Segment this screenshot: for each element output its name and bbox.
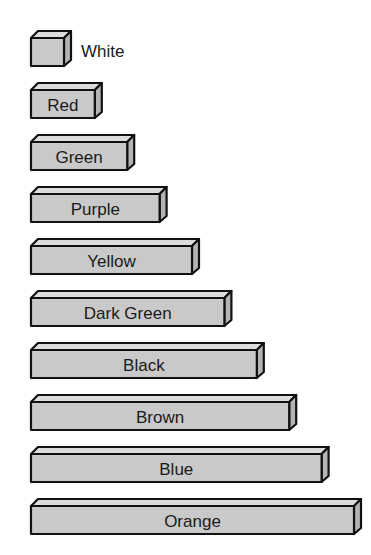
rod-label: Yellow <box>31 253 192 270</box>
rod-brown: Brown <box>30 394 296 430</box>
rod-purple: Purple <box>30 186 167 222</box>
rod-label: Dark Green <box>31 305 224 322</box>
rod-green: Green <box>30 134 134 170</box>
rod-label: Red <box>31 97 95 114</box>
rod-label: Black <box>31 357 257 374</box>
rod-orange: Orange <box>30 498 361 534</box>
rod-label: White <box>81 43 124 60</box>
rod-red: Red <box>30 82 102 118</box>
rod-label: Green <box>31 149 127 166</box>
rod-white: White <box>30 30 71 66</box>
rod-blue: Blue <box>30 446 329 482</box>
rod-black: Black <box>30 342 264 378</box>
rod-yellow: Yellow <box>30 238 199 274</box>
rod-dark-green: Dark Green <box>30 290 231 326</box>
rod-label: Brown <box>31 409 289 426</box>
rod-label: Blue <box>31 461 322 478</box>
rod-label: Purple <box>31 201 160 218</box>
rod-shape <box>30 30 73 68</box>
rod-label: Orange <box>31 513 354 530</box>
